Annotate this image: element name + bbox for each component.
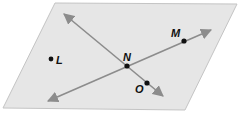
label-L: L	[56, 54, 63, 66]
label-O: O	[135, 83, 144, 95]
point-N	[124, 63, 129, 68]
label-N: N	[123, 51, 132, 63]
label-M: M	[171, 27, 181, 39]
plane	[3, 3, 237, 110]
point-L	[49, 57, 54, 62]
point-O	[144, 80, 149, 85]
point-M	[181, 38, 186, 43]
geometry-diagram: L N M O	[0, 0, 246, 128]
